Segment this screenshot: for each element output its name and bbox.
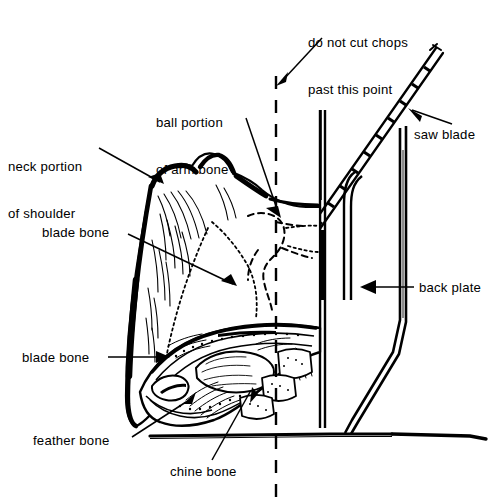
back-plate-label: back plate <box>419 280 481 296</box>
pork-shoulder-cutting-diagram: do not cut chops past this point ball po… <box>0 0 497 500</box>
do-not-cut-chops-line1: do not cut chops <box>308 35 408 51</box>
blade-bone-upper-label: blade bone <box>42 225 109 241</box>
ball-portion-line2: of arm bone <box>156 162 229 178</box>
arrow-back-plate <box>360 280 376 294</box>
ball-portion-arm-bone-label: ball portion of arm bone <box>156 84 229 193</box>
feather-bone-label: feather bone <box>33 433 109 449</box>
neck-portion-line2: of shoulder <box>8 206 82 222</box>
do-not-cut-chops-line2: past this point <box>308 82 408 98</box>
chine-bone-label: chine bone <box>170 464 237 480</box>
neck-portion-line1: neck portion <box>8 159 82 175</box>
saw-table-surface <box>150 434 486 439</box>
ball-portion-line1: ball portion <box>156 115 229 131</box>
saw-blade-label: saw blade <box>414 127 475 143</box>
blade-bone-lower-label: blade bone <box>22 350 89 366</box>
arrow-saw-blade <box>408 108 422 122</box>
do-not-cut-chops-label: do not cut chops past this point <box>308 4 408 113</box>
neck-portion-shoulder-label: neck portion of shoulder <box>8 128 82 237</box>
arrow-do-not-cut <box>276 72 288 86</box>
diagram-canvas <box>0 0 497 500</box>
